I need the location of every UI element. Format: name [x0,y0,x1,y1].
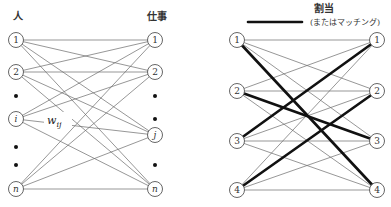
node-label: 2 [374,86,380,96]
edge [16,135,155,189]
legend-subtitle: (またはマッチング) [310,17,380,27]
jobs-header: 仕事 [146,10,167,22]
person-node: 4 [230,183,245,198]
edge [16,40,155,119]
person-node: i [9,112,24,127]
job-node: j [148,128,163,143]
job-node: 1 [148,33,163,48]
person-node: 1 [9,33,24,48]
ellipsis-dot [153,117,157,121]
ellipsis-dot [14,145,18,149]
edge [16,72,155,119]
edge [16,119,155,135]
person-node: 3 [230,134,245,149]
job-node: 2 [370,84,385,99]
node-label: 1 [152,35,158,45]
node-label: 4 [374,185,380,195]
right-graph: 割当 (またはマッチング) 12341234 [230,2,385,198]
person-node: 2 [230,84,245,99]
job-node: 2 [148,65,163,80]
node-label: n [152,184,158,194]
ellipsis-dot [14,163,18,167]
node-label: 1 [13,35,19,45]
person-node: 1 [230,33,245,48]
node-label: 2 [152,67,158,77]
job-node: 4 [370,183,385,198]
ellipsis-dot [153,163,157,167]
node-label: 1 [234,35,240,45]
left-graph: 人 仕事 12in12jn wij [9,10,168,197]
edge [16,72,155,135]
people-header: 人 [13,10,24,22]
job-node: 1 [370,33,385,48]
node-label: 2 [234,86,240,96]
node-label: 1 [374,35,380,45]
node-label: n [13,184,19,194]
legend-title: 割当 [314,2,334,14]
person-node: n [9,182,24,197]
left-graph-edges [16,40,155,189]
edge [16,119,155,189]
job-node: 3 [370,134,385,149]
ellipsis-dot [153,94,157,98]
node-label: 3 [374,136,380,146]
node-label: 4 [234,185,240,195]
node-label: i [15,114,18,124]
node-label: 2 [13,67,19,77]
bipartite-figure: 人 仕事 12in12jn wij 割当 (またはマッチング) 12341234 [0,0,391,207]
person-node: 2 [9,65,24,80]
edge [16,40,155,135]
job-node: n [148,182,163,197]
ellipsis-dot [14,94,18,98]
node-label: 3 [234,136,240,146]
